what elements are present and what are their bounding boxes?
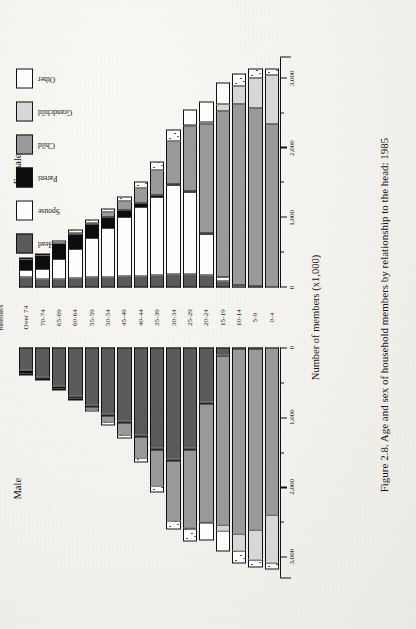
stacked-bar-female-60-64[interactable]	[68, 230, 82, 288]
bar-segment-parent[interactable]	[19, 259, 33, 270]
bar-segment-other[interactable]	[117, 434, 131, 438]
bar-segment-child[interactable]	[232, 348, 246, 533]
bar-segment-child[interactable]	[166, 141, 180, 184]
bar-segment-child[interactable]	[117, 422, 131, 434]
bar-segment-other[interactable]	[183, 109, 197, 125]
bar-segment-grandchild[interactable]	[265, 75, 279, 124]
bar-segment-head[interactable]	[35, 347, 49, 376]
bar-segment-parent[interactable]	[68, 234, 82, 250]
bar-segment-spouse[interactable]	[68, 249, 82, 278]
bar-segment-head[interactable]	[101, 277, 115, 287]
stacked-bar-male-25-29[interactable]	[183, 347, 197, 541]
bar-segment-head[interactable]	[166, 347, 180, 458]
bar-segment-child[interactable]	[134, 436, 148, 457]
bar-segment-spouse[interactable]	[101, 228, 115, 277]
bar-segment-child[interactable]	[101, 212, 115, 216]
bar-segment-head[interactable]	[19, 347, 33, 369]
bar-segment-other[interactable]	[150, 485, 164, 492]
stacked-bar-male-70-74[interactable]	[35, 347, 49, 380]
stacked-bar-male-65-69[interactable]	[52, 347, 66, 390]
bar-segment-child[interactable]	[216, 111, 230, 277]
bar-segment-spouse[interactable]	[117, 217, 131, 276]
bar-segment-parent[interactable]	[35, 255, 49, 269]
stacked-bar-female-70-74[interactable]	[35, 253, 49, 288]
stacked-bar-male-55-59[interactable]	[85, 347, 99, 411]
bar-segment-other[interactable]	[134, 457, 148, 462]
bar-segment-child[interactable]	[248, 108, 262, 286]
bar-segment-head[interactable]	[216, 281, 230, 287]
stacked-bar-female-45-49[interactable]	[117, 196, 131, 287]
bar-segment-head[interactable]	[134, 276, 148, 287]
bar-segment-child[interactable]	[216, 355, 230, 524]
bar-segment-parent[interactable]	[134, 203, 148, 208]
stacked-bar-female-15-19[interactable]	[216, 82, 230, 287]
bar-segment-head[interactable]	[183, 347, 197, 447]
bar-segment-other[interactable]	[101, 208, 115, 213]
stacked-bar-female-25-29[interactable]	[183, 109, 197, 287]
bar-segment-other[interactable]	[216, 530, 230, 551]
bar-segment-other[interactable]	[199, 522, 213, 539]
bar-segment-spouse[interactable]	[52, 259, 66, 279]
bar-segment-child[interactable]	[101, 415, 115, 421]
stacked-bar-female-35-39[interactable]	[150, 161, 164, 288]
bar-segment-head[interactable]	[183, 274, 197, 287]
bar-segment-spouse[interactable]	[35, 269, 49, 279]
bar-segment-other[interactable]	[85, 219, 99, 223]
bar-segment-parent[interactable]	[85, 224, 99, 238]
bar-segment-other[interactable]	[166, 129, 180, 141]
bar-segment-head[interactable]	[68, 347, 82, 395]
bar-segment-other[interactable]	[101, 421, 115, 424]
stacked-bar-female-10-14[interactable]	[232, 73, 246, 287]
bar-segment-head[interactable]	[85, 347, 99, 404]
bar-segment-spouse[interactable]	[183, 192, 197, 274]
bar-segment-head[interactable]	[150, 347, 164, 447]
bar-segment-child[interactable]	[248, 348, 262, 529]
bar-segment-head[interactable]	[52, 347, 66, 385]
bar-segment-grandchild[interactable]	[248, 78, 262, 109]
bar-segment-other[interactable]	[265, 68, 279, 75]
stacked-bar-male-35-39[interactable]	[150, 347, 164, 492]
bar-segment-spouse[interactable]	[166, 185, 180, 274]
bar-segment-child[interactable]	[199, 403, 213, 521]
bar-segment-other[interactable]	[166, 520, 180, 529]
bar-segment-other[interactable]	[134, 181, 148, 188]
bar-segment-other[interactable]	[248, 559, 262, 567]
stacked-bar-male-20-24[interactable]	[199, 347, 213, 540]
stacked-bar-female-over74[interactable]	[19, 257, 33, 287]
bar-segment-head[interactable]	[134, 347, 148, 434]
bar-segment-child[interactable]	[150, 170, 164, 195]
bar-segment-other[interactable]	[52, 240, 66, 243]
stacked-bar-male-40-44[interactable]	[134, 347, 148, 462]
bar-segment-other[interactable]	[232, 550, 246, 563]
bar-segment-grandchild[interactable]	[232, 533, 246, 550]
bar-segment-grandchild[interactable]	[265, 514, 279, 562]
bar-segment-parent[interactable]	[101, 217, 115, 228]
bar-segment-head[interactable]	[68, 278, 82, 287]
bar-segment-spouse[interactable]	[134, 207, 148, 275]
bar-segment-grandchild[interactable]	[216, 524, 230, 530]
bar-segment-spouse[interactable]	[150, 197, 164, 275]
bar-segment-other[interactable]	[35, 253, 49, 255]
bar-segment-other[interactable]	[150, 161, 164, 170]
stacked-bar-male-over74[interactable]	[19, 347, 33, 375]
bar-segment-head[interactable]	[166, 274, 180, 287]
bar-segment-other[interactable]	[216, 82, 230, 104]
stacked-bar-female-0-4[interactable]	[265, 68, 279, 287]
bar-segment-head[interactable]	[85, 277, 99, 287]
bar-segment-head[interactable]	[52, 279, 66, 287]
bar-segment-other[interactable]	[19, 257, 33, 259]
bar-segment-spouse[interactable]	[199, 234, 213, 276]
bar-segment-head[interactable]	[101, 347, 115, 413]
bar-segment-other[interactable]	[248, 69, 262, 78]
bar-segment-grandchild[interactable]	[216, 104, 230, 111]
bar-segment-child[interactable]	[183, 126, 197, 191]
stacked-bar-male-45-49[interactable]	[117, 347, 131, 438]
bar-segment-child[interactable]	[134, 188, 148, 203]
bar-segment-head[interactable]	[35, 279, 49, 287]
bar-segment-other[interactable]	[199, 101, 213, 122]
bar-segment-spouse[interactable]	[216, 277, 230, 281]
bar-segment-head[interactable]	[216, 347, 230, 354]
bar-segment-grandchild[interactable]	[232, 86, 246, 104]
bar-segment-parent[interactable]	[52, 243, 66, 259]
stacked-bar-male-60-64[interactable]	[68, 347, 82, 400]
